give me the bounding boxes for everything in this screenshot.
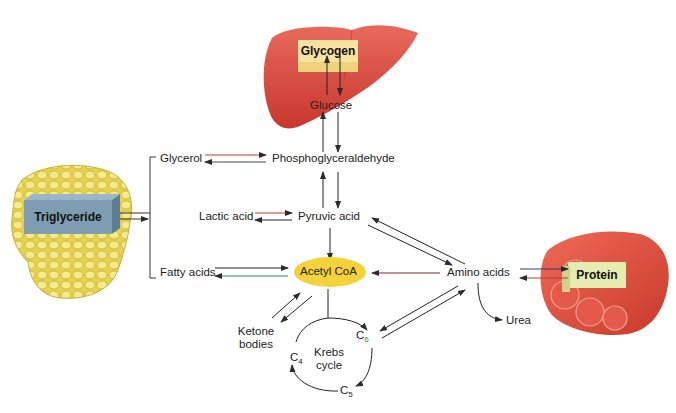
- krebs-cycle-label: Krebs cycle: [312, 346, 346, 372]
- fatty-acids-label: Fatty acids: [160, 267, 216, 279]
- glucose-label: Glucose: [310, 100, 352, 112]
- ketone-bodies-label: Ketone bodies: [236, 325, 276, 351]
- lactic-acid-label: Lactic acid: [199, 211, 253, 223]
- phosphoglyceraldehyde-label: Phosphoglyceraldehyde: [272, 153, 395, 165]
- metabolism-diagram: Glycogen Triglyceride Protein Glucose Gl…: [0, 0, 676, 413]
- pyruvic-acid-label: Pyruvic acid: [298, 211, 360, 223]
- acetyl-coa-label: Acetyl CoA: [300, 266, 357, 278]
- c6-label: C6: [356, 330, 369, 344]
- c5-label: C5: [340, 385, 353, 399]
- protein-label: Protein: [568, 262, 626, 288]
- urea-label: Urea: [506, 315, 531, 327]
- glycerol-label: Glycerol: [160, 153, 202, 165]
- c4-label: C4: [290, 352, 303, 366]
- amino-acids-label: Amino acids: [447, 267, 510, 279]
- triglyceride-label: Triglyceride: [24, 200, 112, 234]
- glycogen-label: Glycogen: [298, 40, 358, 62]
